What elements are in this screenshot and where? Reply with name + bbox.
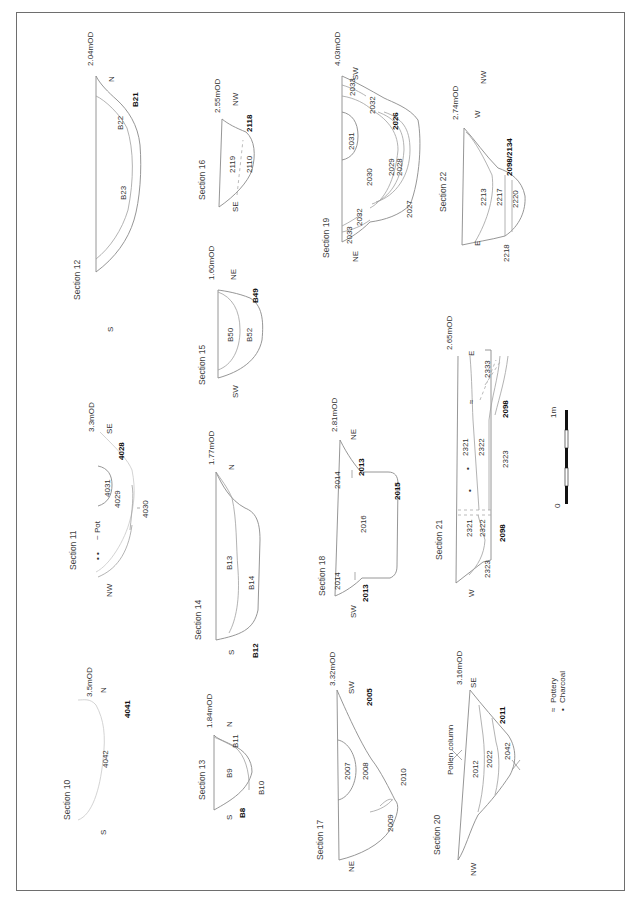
datum-label: 2.81mOD	[330, 398, 339, 432]
datum-label: 2.04mOD	[86, 32, 95, 66]
context-label: B11	[231, 734, 240, 748]
direction-right: E	[467, 351, 476, 356]
section-title: Section 13	[197, 760, 207, 800]
context-label: 2333	[483, 360, 492, 378]
direction-extra: NW	[479, 70, 488, 84]
section-title: Section 21	[434, 520, 444, 560]
section-title: Section 16	[197, 160, 207, 200]
direction-right: N	[99, 687, 108, 693]
charcoal-icon: •	[463, 467, 472, 470]
direction-right: SW	[347, 681, 356, 694]
context-label: B13	[225, 555, 234, 570]
direction-left: NE	[351, 251, 360, 262]
context-label: 2032	[355, 208, 364, 226]
cut-label: 2013	[361, 584, 370, 602]
context-label: 4030	[141, 500, 150, 518]
datum-label: 1.84mOD	[205, 694, 214, 728]
direction-right: N	[107, 76, 116, 82]
context-label: 2119	[228, 155, 237, 173]
section-title: Section 11	[68, 530, 78, 570]
context-label: 2012	[471, 760, 480, 778]
direction-right: NW	[231, 92, 240, 106]
context-label: 2213	[479, 188, 488, 206]
direction-left: SE	[231, 201, 240, 212]
direction-left: S	[106, 327, 115, 332]
context-label: 2028	[395, 158, 404, 176]
context-label: 2008	[361, 762, 370, 780]
cut-label: 2011	[498, 706, 507, 724]
cut-label: 4041	[123, 700, 132, 718]
section-title: Section 20	[432, 815, 442, 855]
cut-label: 2026	[391, 112, 400, 130]
datum-label: 1.60mOD	[207, 246, 216, 280]
section-title: Section 18	[317, 556, 327, 596]
cut-label: 2098	[498, 524, 507, 542]
context-label: 2032	[368, 96, 377, 114]
section-title: Section 15	[197, 345, 207, 385]
section-title: Section 12	[72, 260, 82, 300]
section-11: Section 11 3.3mOD NW SE 4031 4029 4030 4…	[68, 402, 150, 597]
cut-label: B12	[251, 643, 260, 658]
context-label: 2322	[477, 438, 486, 456]
find-label: ~ Pot	[93, 520, 102, 540]
context-label: 2016	[359, 515, 368, 533]
section-21: Section 21 2.65mOD W E 2321 2322 2323 23…	[434, 316, 510, 597]
context-label: 4029	[113, 490, 122, 508]
datum-label: 3.32mOD	[328, 652, 337, 686]
direction-left: E	[473, 241, 482, 246]
legend-pottery-label: Pottery	[549, 678, 558, 703]
direction-right: N	[225, 721, 234, 727]
context-label: 4031	[103, 479, 112, 497]
context-label: 2033	[345, 226, 354, 244]
section-18: Section 18 2.81mOD SW NE 2014 2016 2014 …	[317, 398, 402, 618]
context-label: 2217	[495, 188, 504, 206]
context-label: 2014	[333, 471, 342, 489]
context-label: B9	[225, 768, 234, 778]
direction-left: NE	[347, 861, 356, 872]
datum-label: 3.3mOD	[87, 402, 96, 432]
cut-label: 4028	[117, 442, 126, 460]
direction-left: NW	[469, 862, 478, 876]
datum-label: 2.65mOD	[445, 316, 454, 350]
section-19: Section 19 4.03mOD NE SW 2033 2032 2031 …	[321, 32, 420, 262]
datum-label: 2.74mOD	[451, 86, 460, 120]
context-label: B23	[119, 185, 128, 200]
cut-label: B21	[131, 92, 140, 107]
datum-label: 3.5mOD	[85, 667, 94, 697]
section-13: Section 13 1.84mOD S N B9 B10 B11 B8	[197, 694, 266, 820]
datum-label: 2.55mOD	[213, 79, 222, 113]
section-20: Section 20 3.16mOD NW SE Pollen column 2…	[432, 651, 520, 876]
section-10: Section 10 3.5mOD S N 4042 4041	[62, 667, 132, 835]
context-label: 2323	[483, 560, 492, 578]
cut-label: B49	[251, 288, 260, 303]
legend-charcoal-label: Charcoal	[558, 671, 567, 703]
datum-label: 3.16mOD	[455, 651, 464, 685]
context-label: B50	[226, 327, 235, 342]
cut-label: B8	[238, 807, 247, 818]
scale-bar: 0 1m	[549, 407, 568, 508]
context-label: 2323	[501, 450, 510, 468]
context-label: 2322	[478, 519, 487, 537]
cut-label: 2015	[393, 482, 402, 500]
cut-label: 2013	[357, 458, 366, 476]
context-label: 2321	[461, 438, 470, 456]
charcoal-icon: •	[558, 708, 567, 711]
direction-left: SW	[231, 385, 240, 398]
context-label: 2220	[511, 190, 520, 208]
section-title: Section 10	[62, 780, 72, 820]
context-label: 2110	[245, 155, 254, 173]
context-label: 2014	[333, 572, 342, 590]
direction-left: S	[225, 815, 234, 820]
section-drawings: Section 12 2.04mOD S N B23 B22 B21 Secti…	[0, 0, 640, 897]
direction-left: S	[227, 650, 236, 655]
charcoal-icon: • •	[93, 552, 102, 560]
direction-right: NE	[349, 429, 358, 440]
scale-end-label: 1m	[549, 407, 558, 418]
context-label: 2009	[386, 814, 395, 832]
datum-label: 1.77mOD	[207, 431, 216, 465]
section-title: Section 22	[438, 172, 448, 212]
context-label: 2030	[365, 168, 374, 186]
context-label: 2027	[405, 200, 414, 218]
context-label: B52	[245, 327, 254, 342]
section-12: Section 12 2.04mOD S N B23 B22 B21	[72, 32, 141, 332]
